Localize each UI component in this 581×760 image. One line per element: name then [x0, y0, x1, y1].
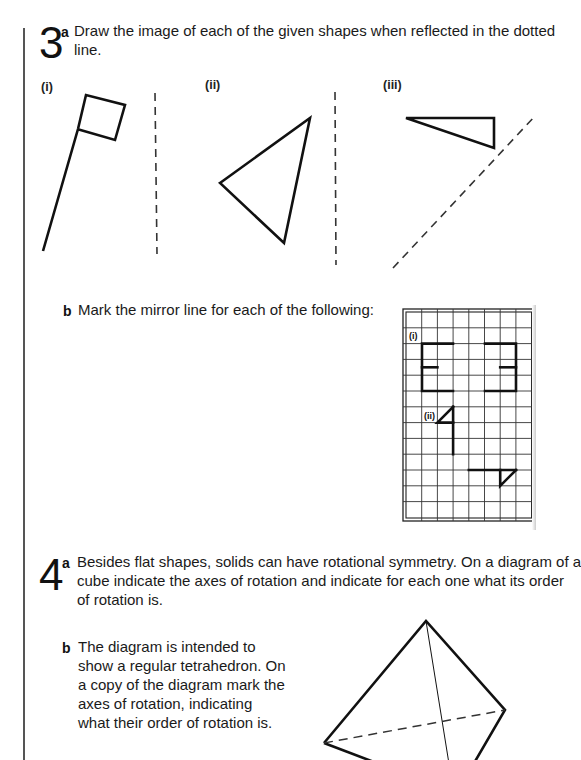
figure-iii-triangle [406, 118, 494, 148]
mirror-line-grid [403, 309, 534, 521]
grid-label-i: (i) [409, 331, 418, 341]
grid-label-ii: (ii) [424, 411, 435, 421]
figure-ii-triangle [220, 118, 310, 243]
mirror-line-i [155, 93, 157, 254]
tetrahedron-figure [324, 621, 505, 760]
mirror-line-ii [335, 92, 336, 265]
figure-i-flag [43, 95, 125, 251]
page-edge-shadow [532, 305, 536, 530]
